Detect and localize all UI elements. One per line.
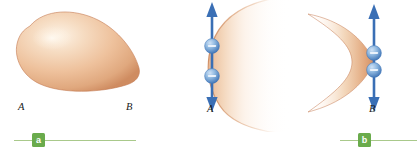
charge-electron bbox=[367, 63, 382, 78]
charge-electron bbox=[205, 69, 220, 84]
panel-c: B c bbox=[290, 0, 417, 158]
egg-specular-highlight bbox=[32, 26, 72, 50]
panel-c-artwork bbox=[290, 0, 417, 132]
panel-badge-a: a bbox=[32, 133, 45, 147]
conductor-surface-closeup-b bbox=[308, 14, 374, 112]
panel-a: A B a bbox=[0, 0, 150, 158]
egg-conductor-shape bbox=[16, 12, 139, 91]
panel-b-artwork bbox=[150, 0, 290, 132]
caption-rail-a: a bbox=[14, 133, 136, 147]
panel-b: A b bbox=[150, 0, 290, 158]
point-label-b: B bbox=[126, 102, 132, 113]
figure-canvas: A B a bbox=[0, 0, 417, 158]
point-label-a: A bbox=[18, 102, 24, 113]
conductor-surface-closeup-a bbox=[208, 0, 290, 132]
charge-electron bbox=[205, 39, 220, 54]
point-label-a-closeup: A bbox=[207, 104, 213, 115]
charge-electron bbox=[367, 46, 382, 61]
point-label-b-closeup: B bbox=[369, 104, 375, 115]
